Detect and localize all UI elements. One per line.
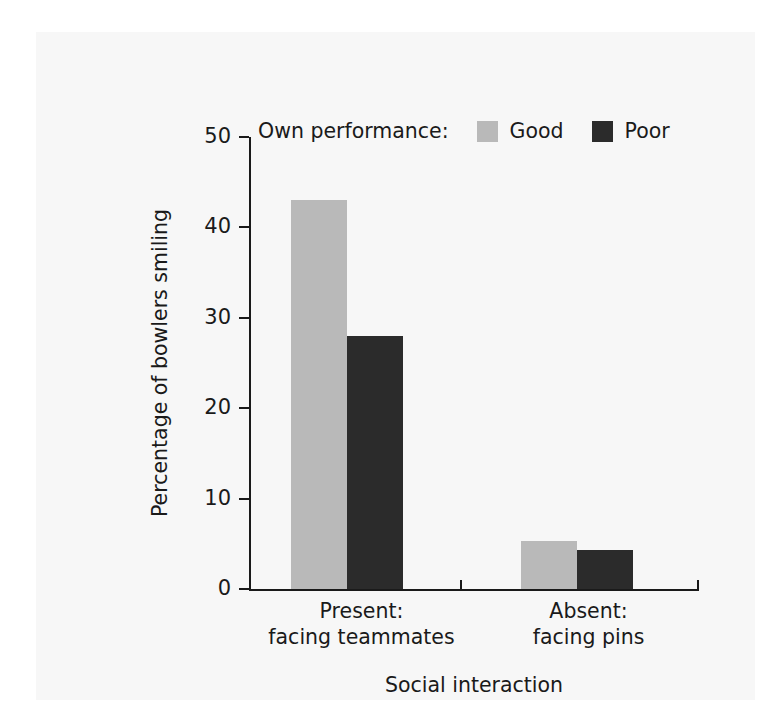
y-axis-tick: 40 xyxy=(239,226,249,228)
y-axis-tick-label: 40 xyxy=(204,214,231,238)
y-axis-tick: 50 xyxy=(239,136,249,138)
x-axis-line xyxy=(249,589,699,591)
plot-area: 01020304050 xyxy=(249,137,699,589)
bar-poor-present xyxy=(347,336,403,589)
bar-good-present xyxy=(291,200,347,589)
y-axis-tick: 30 xyxy=(239,317,249,319)
y-axis-tick-label: 30 xyxy=(204,304,231,328)
category-label-absent: Absent: facing pins xyxy=(476,598,701,650)
category-label-present: Present: facing teammates xyxy=(249,598,474,650)
y-axis-tick-label: 10 xyxy=(204,485,231,509)
x-axis-end-tick xyxy=(697,580,699,590)
category-label-absent-line1: Absent: xyxy=(476,598,701,624)
bar-good-absent xyxy=(521,541,577,589)
category-label-absent-line2: facing pins xyxy=(476,624,701,650)
category-label-present-line1: Present: xyxy=(249,598,474,624)
y-axis-tick: 10 xyxy=(239,498,249,500)
y-axis-tick-label: 50 xyxy=(204,124,231,148)
figure-panel: Own performance: Good Poor Percentage of… xyxy=(36,32,755,700)
y-axis-tick-label: 0 xyxy=(218,576,231,600)
y-axis-tick: 20 xyxy=(239,407,249,409)
bars-layer xyxy=(249,137,699,589)
y-axis-title: Percentage of bowlers smiling xyxy=(145,137,175,589)
y-axis-tick: 0 xyxy=(239,588,249,590)
x-axis-separator-tick xyxy=(460,580,462,590)
y-axis-tick-label: 20 xyxy=(204,395,231,419)
category-label-present-line2: facing teammates xyxy=(249,624,474,650)
x-axis-title: Social interaction xyxy=(249,673,699,697)
bar-poor-absent xyxy=(577,550,633,589)
